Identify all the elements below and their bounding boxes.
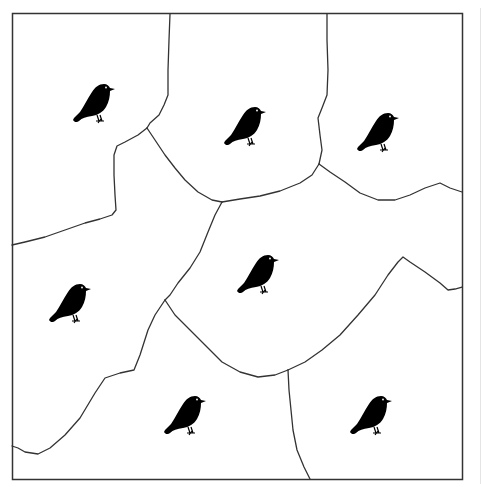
bird-icon (350, 396, 392, 435)
frame (13, 14, 463, 480)
territory-diagram (0, 0, 481, 487)
territory-boundaries (12, 14, 462, 479)
bird-icon (237, 255, 279, 294)
bird-icon (49, 284, 91, 323)
bird-icon (73, 84, 115, 123)
bird-icon (224, 107, 266, 146)
bird-icon (357, 113, 399, 152)
bird-icon (164, 396, 206, 435)
territory-map (0, 0, 481, 487)
